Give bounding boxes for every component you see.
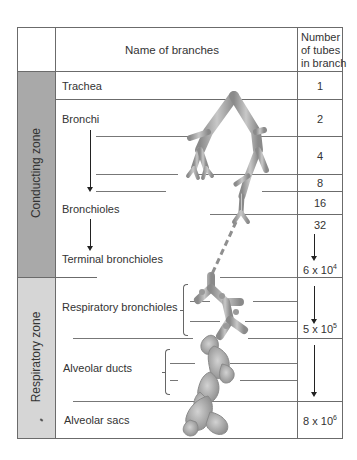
airway-tree-illustration (0, 0, 357, 460)
